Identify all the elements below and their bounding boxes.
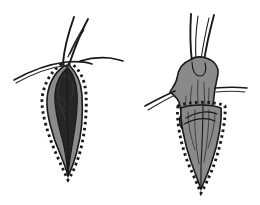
figure-canvas: .ink { fill:none; stroke:#1a1a1a; stroke… — [0, 0, 260, 205]
canvas-background — [0, 0, 260, 205]
skin-surface-line-right — [215, 87, 247, 88]
illustration-svg: .ink { fill:none; stroke:#1a1a1a; stroke… — [0, 0, 260, 205]
